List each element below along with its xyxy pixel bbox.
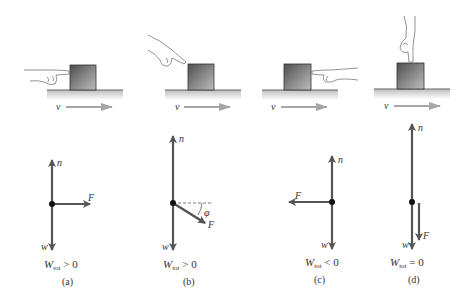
normal-label: n bbox=[418, 122, 423, 133]
normal-label: n bbox=[179, 133, 184, 144]
scene-b: v bbox=[148, 35, 241, 112]
force-label: F bbox=[87, 192, 95, 203]
work-relation-b: Wtot > 0 bbox=[163, 258, 197, 272]
scene-a: v bbox=[24, 65, 123, 112]
work-relation-d: Wtot = 0 bbox=[390, 256, 424, 270]
caption-b: (b) bbox=[183, 276, 195, 288]
work-diagram-figure: v n w F Wtot > 0 (a) v bbox=[0, 0, 468, 303]
angle-arc bbox=[198, 203, 202, 215]
panel-d: v n w F Wtot = 0 (d) bbox=[374, 16, 450, 286]
ground bbox=[262, 90, 338, 100]
weight-label: w bbox=[162, 241, 169, 252]
velocity-label: v bbox=[384, 100, 389, 111]
normal-label: n bbox=[57, 157, 62, 168]
work-relation-c: Wtot < 0 bbox=[305, 256, 339, 270]
ground bbox=[374, 89, 450, 99]
normal-label: n bbox=[338, 154, 343, 165]
particle-dot bbox=[49, 201, 55, 207]
caption-a: (a) bbox=[62, 276, 73, 288]
panel-b: v n w F φ Wtot > 0 (b) bbox=[148, 35, 241, 288]
panel-a: v n w F Wtot > 0 (a) bbox=[24, 65, 123, 288]
scene-d: v bbox=[374, 16, 450, 111]
caption-c: (c) bbox=[314, 274, 325, 286]
ground bbox=[165, 90, 241, 100]
weight-label: w bbox=[41, 241, 48, 252]
free-body-diagram-a: n w F bbox=[41, 157, 95, 252]
hand-icon bbox=[400, 16, 415, 62]
block bbox=[188, 64, 214, 90]
particle-dot bbox=[329, 199, 335, 205]
particle-dot bbox=[409, 199, 415, 205]
block bbox=[70, 65, 96, 90]
particle-dot bbox=[170, 200, 176, 206]
force-label: F bbox=[422, 230, 430, 241]
applied-force-vector bbox=[173, 203, 205, 223]
weight-label: w bbox=[321, 239, 328, 250]
velocity-label: v bbox=[56, 101, 61, 112]
ground bbox=[47, 90, 123, 100]
hand-icon bbox=[148, 35, 186, 66]
work-relation-a: Wtot > 0 bbox=[44, 258, 78, 272]
block bbox=[284, 64, 311, 90]
velocity-label: v bbox=[271, 101, 276, 112]
caption-d: (d) bbox=[408, 274, 420, 286]
free-body-diagram-c: n w F bbox=[289, 154, 343, 250]
hand-icon bbox=[24, 70, 69, 85]
weight-label: w bbox=[402, 239, 409, 250]
free-body-diagram-b: n w F φ bbox=[162, 133, 215, 252]
block bbox=[397, 63, 424, 89]
velocity-label: v bbox=[175, 101, 180, 112]
panel-c: v n w F Wtot < 0 (c) bbox=[262, 64, 358, 286]
angle-label: φ bbox=[204, 207, 210, 218]
hand-icon bbox=[312, 68, 358, 82]
scene-c: v bbox=[262, 64, 358, 112]
free-body-diagram-d: n w F bbox=[402, 122, 430, 250]
force-label: F bbox=[294, 190, 302, 201]
force-label: F bbox=[207, 219, 215, 230]
